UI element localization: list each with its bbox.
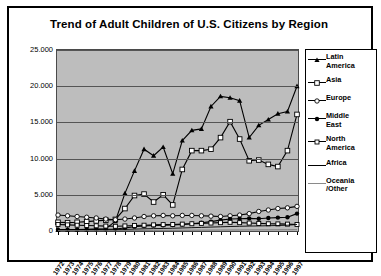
plot-area bbox=[56, 49, 299, 232]
series-marker bbox=[161, 223, 165, 227]
legend-symbol-icon bbox=[308, 113, 326, 124]
series-marker bbox=[104, 224, 108, 228]
series-marker bbox=[247, 211, 251, 215]
series-marker bbox=[171, 222, 175, 226]
series-marker bbox=[141, 147, 146, 152]
x-tick bbox=[268, 232, 269, 235]
x-tick bbox=[297, 232, 298, 235]
series-marker bbox=[132, 216, 136, 220]
legend-item[interactable]: Asia bbox=[308, 76, 374, 88]
series-marker bbox=[237, 137, 242, 142]
x-tick bbox=[192, 232, 193, 235]
series-marker bbox=[94, 216, 98, 220]
series-marker bbox=[276, 206, 280, 210]
series-marker bbox=[170, 203, 175, 208]
series-marker bbox=[123, 217, 127, 221]
legend-label: NorthAmerica bbox=[326, 135, 355, 152]
series-marker bbox=[285, 206, 289, 210]
series-marker bbox=[199, 126, 204, 131]
x-tick bbox=[201, 232, 202, 235]
series-marker bbox=[123, 224, 127, 228]
series-marker bbox=[199, 221, 203, 225]
series-marker bbox=[152, 223, 156, 227]
series-marker bbox=[199, 148, 204, 153]
series-marker bbox=[75, 214, 79, 218]
series-marker bbox=[180, 167, 185, 172]
series-marker bbox=[295, 204, 299, 208]
series-marker bbox=[218, 135, 223, 140]
series-marker bbox=[151, 200, 156, 205]
x-tick bbox=[173, 232, 174, 235]
series-marker bbox=[190, 222, 194, 226]
gridline bbox=[57, 195, 298, 196]
series-marker bbox=[218, 94, 223, 99]
series-marker bbox=[257, 209, 261, 213]
legend-label: Asia bbox=[326, 76, 341, 85]
series-marker bbox=[266, 208, 270, 212]
legend-item[interactable]: Oceania/Other bbox=[308, 177, 374, 194]
x-tick bbox=[144, 232, 145, 235]
series-marker bbox=[65, 214, 69, 218]
gridline bbox=[57, 50, 298, 51]
series-marker bbox=[238, 221, 242, 225]
series-marker bbox=[56, 213, 60, 217]
x-tick bbox=[278, 232, 279, 235]
chart-legend: LatinAmericaAsiaEuropeMiddleEastNorthAme… bbox=[305, 49, 377, 253]
series-marker bbox=[56, 222, 60, 226]
legend-label: Oceania/Other bbox=[326, 177, 354, 194]
series-marker bbox=[180, 213, 184, 217]
x-tick bbox=[287, 232, 288, 235]
x-tick bbox=[230, 232, 231, 235]
x-tick bbox=[154, 232, 155, 235]
chart-frame: Trend of Adult Children of U.S. Citizens… bbox=[7, 6, 373, 262]
x-tick bbox=[96, 232, 97, 235]
series-marker bbox=[190, 148, 195, 153]
chart-title: Trend of Adult Children of U.S. Citizens… bbox=[39, 18, 339, 30]
x-tick bbox=[58, 232, 59, 235]
series-marker bbox=[199, 214, 203, 218]
series-marker bbox=[151, 214, 155, 218]
series-marker bbox=[228, 220, 232, 224]
legend-symbol-icon bbox=[308, 178, 326, 189]
y-tick-label: 25.000 bbox=[30, 45, 53, 54]
series-marker bbox=[113, 218, 117, 222]
legend-label: MiddleEast bbox=[326, 112, 349, 129]
legend-item[interactable]: MiddleEast bbox=[308, 112, 374, 129]
series-marker bbox=[66, 223, 70, 227]
y-tick-label: 0 bbox=[49, 226, 53, 235]
x-tick bbox=[249, 232, 250, 235]
legend-label: Europe bbox=[326, 94, 351, 103]
series-marker bbox=[85, 223, 89, 227]
legend-item[interactable]: Europe bbox=[308, 94, 374, 106]
series-marker bbox=[113, 224, 117, 228]
legend-label: LatinAmerica bbox=[326, 53, 355, 70]
legend-symbol-icon bbox=[308, 77, 326, 88]
series-marker bbox=[209, 221, 213, 225]
series-line bbox=[58, 114, 297, 222]
legend-symbol-icon bbox=[308, 136, 326, 147]
x-tick bbox=[68, 232, 69, 235]
series-marker bbox=[295, 112, 300, 117]
series-marker bbox=[123, 206, 128, 211]
series-marker bbox=[170, 171, 175, 176]
gridline bbox=[57, 86, 298, 87]
series-marker bbox=[161, 144, 166, 149]
x-tick bbox=[221, 232, 222, 235]
series-marker bbox=[132, 168, 137, 173]
series-marker bbox=[285, 109, 290, 114]
series-marker bbox=[180, 222, 184, 226]
legend-item[interactable]: LatinAmerica bbox=[308, 53, 374, 70]
series-marker bbox=[209, 214, 213, 218]
series-marker bbox=[266, 117, 271, 122]
x-tick bbox=[106, 232, 107, 235]
series-marker bbox=[276, 215, 280, 219]
series-marker bbox=[257, 216, 261, 220]
x-tick bbox=[87, 232, 88, 235]
legend-item[interactable]: Africa bbox=[308, 159, 374, 171]
series-marker bbox=[142, 214, 146, 218]
legend-item[interactable]: NorthAmerica bbox=[308, 135, 374, 152]
series-marker bbox=[104, 217, 108, 221]
x-tick bbox=[77, 232, 78, 235]
series-marker bbox=[285, 148, 290, 153]
series-marker bbox=[295, 211, 299, 215]
